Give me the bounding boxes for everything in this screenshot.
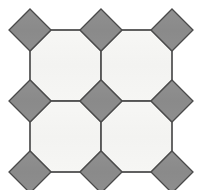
truncated-square-tiling-figure (0, 0, 198, 190)
tiling-canvas (0, 0, 198, 190)
square-layer (9, 9, 193, 190)
